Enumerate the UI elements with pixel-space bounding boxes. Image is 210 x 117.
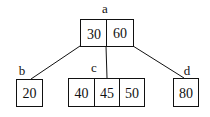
node-key: 40 xyxy=(75,86,89,101)
node-key: 30 xyxy=(87,27,101,42)
node-key: 80 xyxy=(179,86,193,101)
node-d: d 80 xyxy=(174,63,199,107)
edge-a-b xyxy=(31,46,80,79)
edge-a-c xyxy=(106,46,107,78)
edge-a-d xyxy=(133,46,184,78)
node-label-c: c xyxy=(91,60,97,75)
node-key: 20 xyxy=(23,86,37,101)
node-a: a 30 60 xyxy=(81,1,134,47)
node-label-d: d xyxy=(184,63,191,78)
node-key: 50 xyxy=(125,86,139,101)
node-label-a: a xyxy=(102,1,108,16)
node-key: 45 xyxy=(100,86,114,101)
node-b: b 20 xyxy=(17,63,43,107)
node-label-b: b xyxy=(19,63,26,78)
node-key: 60 xyxy=(113,26,127,41)
b-tree-diagram: a 30 60 b 20 c 40 45 50 d 80 xyxy=(0,0,210,117)
